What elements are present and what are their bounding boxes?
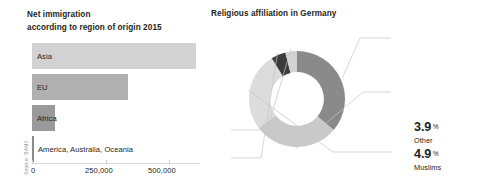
donut-chart-panel: Religious affiliation in Germany 36.2% N…: [205, 0, 492, 192]
callout-other: 3.9% Other: [414, 117, 439, 145]
bar-row: EU: [32, 74, 200, 100]
bar-row: Africa: [32, 105, 200, 131]
callout-muslims: 4.9% Muslims: [414, 144, 441, 172]
donut-slice: [297, 51, 345, 130]
bar-rect: [32, 136, 34, 162]
source-note: Source: BAMF: [23, 131, 29, 175]
bar-category-label: America, Australia, Oceania: [38, 145, 133, 154]
axis-tick-0: [32, 160, 33, 164]
bar-category-label: EU: [37, 83, 48, 92]
bar-row: America, Australia, Oceania: [32, 136, 200, 162]
axis-tick-label-250000: 250,000: [85, 166, 113, 175]
axis-tick-label-0: 0: [31, 166, 35, 175]
callout-value: 3.9: [414, 121, 431, 134]
callout-value: 4.9: [414, 148, 431, 161]
bar-chart-plot-area: AsiaEUAfricaAmerica, Australia, Oceania: [32, 43, 200, 163]
donut-chart-svg: [205, 0, 492, 192]
callout-percent-sign: %: [433, 123, 439, 130]
donut-leader-line: [342, 38, 391, 78]
bar-chart-panel: Net immigration according to region of o…: [0, 0, 205, 192]
bar-category-label: Africa: [37, 114, 57, 123]
callout-description: Muslims: [414, 163, 441, 172]
bar-row: Asia: [32, 43, 200, 69]
bar-category-label: Asia: [37, 52, 52, 61]
bar-chart-axis-line: [32, 163, 200, 164]
axis-tick-250000: [106, 160, 107, 164]
donut-slice-group: [249, 51, 345, 147]
bar-chart-title: Net immigration according to region of o…: [27, 9, 162, 34]
bar-chart-title-line1: Net immigration: [27, 10, 91, 19]
axis-tick-500000: [169, 160, 170, 164]
infographic-root: Net immigration according to region of o…: [0, 0, 492, 192]
bar-rect: [32, 43, 196, 69]
axis-tick-label-500000: 500,000: [148, 166, 176, 175]
bar-chart-title-line2: according to region of origin 2015: [27, 22, 162, 35]
callout-percent-sign: %: [433, 150, 439, 157]
